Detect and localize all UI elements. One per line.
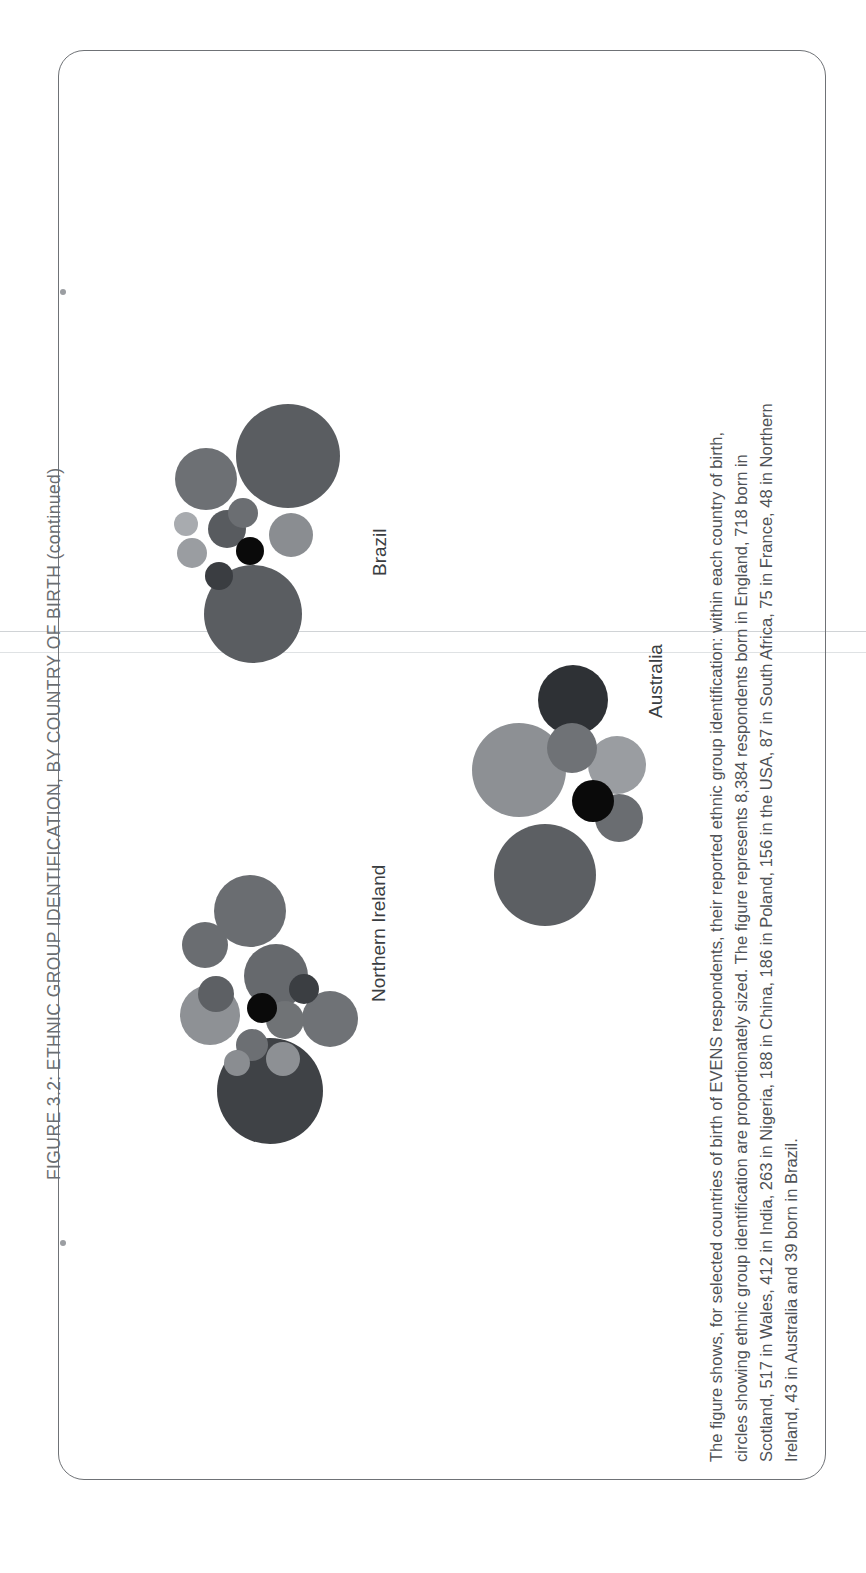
bubble-chart-plot-area [0, 0, 866, 1573]
bubble-brazil-8 [205, 562, 233, 590]
bubble-brazil-9 [174, 512, 198, 536]
cluster-label-australia: Australia [645, 644, 667, 718]
bubble-brazil-3 [269, 513, 313, 557]
bubble-australia-0 [494, 824, 596, 926]
bubble-northern-ireland-5 [182, 922, 228, 968]
cluster-label-northern-ireland: Northern Ireland [368, 865, 390, 1002]
bubble-brazil-2 [175, 448, 237, 510]
bubble-northern-ireland-11 [247, 993, 277, 1023]
cluster-label-brazil: Brazil [369, 528, 391, 576]
bubble-northern-ireland-12 [224, 1050, 250, 1076]
bubble-northern-ireland-10 [289, 974, 319, 1004]
bubble-northern-ireland-8 [266, 1042, 300, 1076]
bubble-australia-6 [572, 780, 614, 822]
bubble-brazil-7 [236, 537, 264, 565]
bubble-brazil-0 [236, 404, 340, 508]
bubble-northern-ireland-7 [198, 976, 234, 1012]
bubble-brazil-6 [228, 498, 258, 528]
bubble-australia-4 [547, 723, 597, 773]
bubble-brazil-5 [177, 538, 207, 568]
